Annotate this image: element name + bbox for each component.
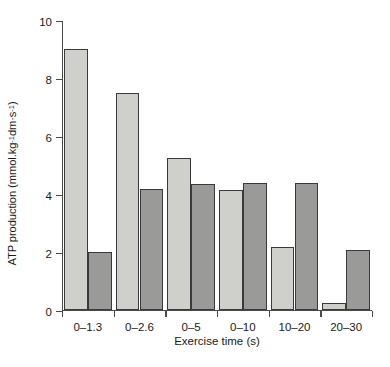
atp-production-bar-chart: ATP production (mmol.kg-1 dm·s-1) 024681… [0, 0, 390, 367]
x-tick-4 [269, 311, 270, 317]
bar-dark-series-20–30 [346, 250, 370, 311]
y-tick-label-2: 2 [46, 248, 52, 260]
x-tick-5 [320, 311, 321, 317]
bar-light-series-0–10 [219, 190, 243, 310]
bar-dark-series-0–2.6 [140, 189, 164, 311]
y-tick-label-4: 4 [46, 190, 52, 202]
plot-area: 0246810 0–1.30–2.60–50–1010–2020–30 [62, 21, 372, 311]
y-tick-8: 8 [56, 79, 62, 80]
y-axis-title-main: ATP production (mmol.kg [6, 143, 18, 266]
bar-dark-series-10–20 [295, 183, 319, 311]
y-tick-label-6: 6 [46, 132, 52, 144]
y-axis-title-close: ) [6, 101, 18, 105]
x-category-label-10–20: 10–20 [279, 321, 311, 333]
y-tick-4: 4 [56, 195, 62, 196]
y-tick-2: 2 [56, 253, 62, 254]
x-tick-3 [217, 311, 218, 317]
x-category-label-0–1.3: 0–1.3 [73, 321, 102, 333]
x-category-label-0–2.6: 0–2.6 [125, 321, 154, 333]
bar-dark-series-0–10 [243, 183, 267, 311]
x-axis-title: Exercise time (s) [62, 335, 372, 347]
x-tick-2 [165, 311, 166, 317]
bar-light-series-10–20 [271, 247, 295, 311]
bar-dark-series-0–1.3 [88, 252, 112, 310]
x-tick-0 [62, 311, 63, 317]
y-tick-label-8: 8 [46, 74, 52, 86]
bar-light-series-20–30 [322, 303, 346, 310]
bar-light-series-0–5 [167, 158, 191, 310]
y-tick-6: 6 [56, 137, 62, 138]
y-tick-label-10: 10 [39, 16, 52, 28]
bar-light-series-0–2.6 [116, 93, 140, 311]
x-category-label-20–30: 20–30 [330, 321, 362, 333]
bar-light-series-0–1.3 [64, 49, 88, 310]
y-tick-label-0: 0 [46, 306, 52, 318]
x-tick-end [372, 311, 373, 317]
bar-dark-series-0–5 [191, 184, 215, 310]
y-tick-10: 10 [56, 21, 62, 22]
x-category-label-0–5: 0–5 [182, 321, 201, 333]
y-axis-title-mid: dm·s [6, 112, 18, 136]
y-axis-title: ATP production (mmol.kg-1 dm·s-1) [0, 0, 24, 367]
x-category-label-0–10: 0–10 [230, 321, 256, 333]
x-tick-1 [114, 311, 115, 317]
